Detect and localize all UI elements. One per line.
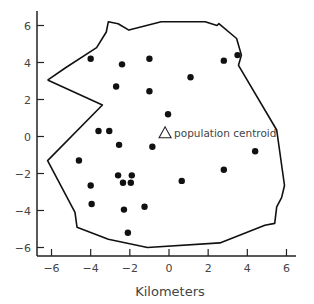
x-tick-label: 0 xyxy=(166,262,173,275)
scatter-chart: −6−4−20246 −6−4−20246 Kilometers populat… xyxy=(0,0,314,304)
data-point xyxy=(121,206,127,212)
data-point xyxy=(87,182,93,188)
data-point xyxy=(95,128,101,134)
axes: −6−4−20246 −6−4−20246 Kilometers xyxy=(15,11,296,299)
centroid-label: population centroid xyxy=(174,127,276,139)
y-tick-label: 6 xyxy=(24,20,31,33)
data-point xyxy=(120,180,126,186)
data-point xyxy=(252,148,258,154)
x-tick-label: 2 xyxy=(205,262,212,275)
x-tick-label: −4 xyxy=(83,262,99,275)
data-point xyxy=(106,128,112,134)
x-tick-label: −6 xyxy=(43,262,59,275)
x-axis-label: Kilometers xyxy=(135,284,205,299)
data-point xyxy=(179,178,185,184)
triangle-icon xyxy=(159,127,171,138)
y-tick-label: 0 xyxy=(24,131,31,144)
y-tick-label: 4 xyxy=(24,57,31,70)
data-point xyxy=(119,61,125,67)
data-points xyxy=(76,52,259,236)
y-tick-label: −6 xyxy=(15,242,31,255)
data-point xyxy=(76,157,82,163)
data-point xyxy=(146,56,152,62)
data-point xyxy=(125,230,131,236)
data-point xyxy=(116,142,122,148)
data-point xyxy=(146,88,152,94)
data-point xyxy=(113,83,119,89)
x-tick-label: 6 xyxy=(283,262,290,275)
data-point xyxy=(87,56,93,62)
y-tick-label: −2 xyxy=(15,168,31,181)
data-point xyxy=(88,201,94,207)
data-point xyxy=(129,172,135,178)
data-point xyxy=(234,52,240,58)
x-tick-label: 4 xyxy=(244,262,251,275)
data-point xyxy=(128,180,134,186)
data-point xyxy=(221,57,227,63)
x-tick-label: −2 xyxy=(122,262,138,275)
data-point xyxy=(187,74,193,80)
data-point xyxy=(141,204,147,210)
data-point xyxy=(149,143,155,149)
x-ticks: −6−4−20246 xyxy=(43,249,290,275)
data-point xyxy=(115,172,121,178)
y-tick-label: 2 xyxy=(24,94,31,107)
population-centroid-annotation: population centroid xyxy=(159,127,276,139)
data-point xyxy=(221,167,227,173)
y-tick-label: −4 xyxy=(15,205,31,218)
y-ticks: −6−4−20246 xyxy=(15,20,44,255)
data-point xyxy=(165,111,171,117)
